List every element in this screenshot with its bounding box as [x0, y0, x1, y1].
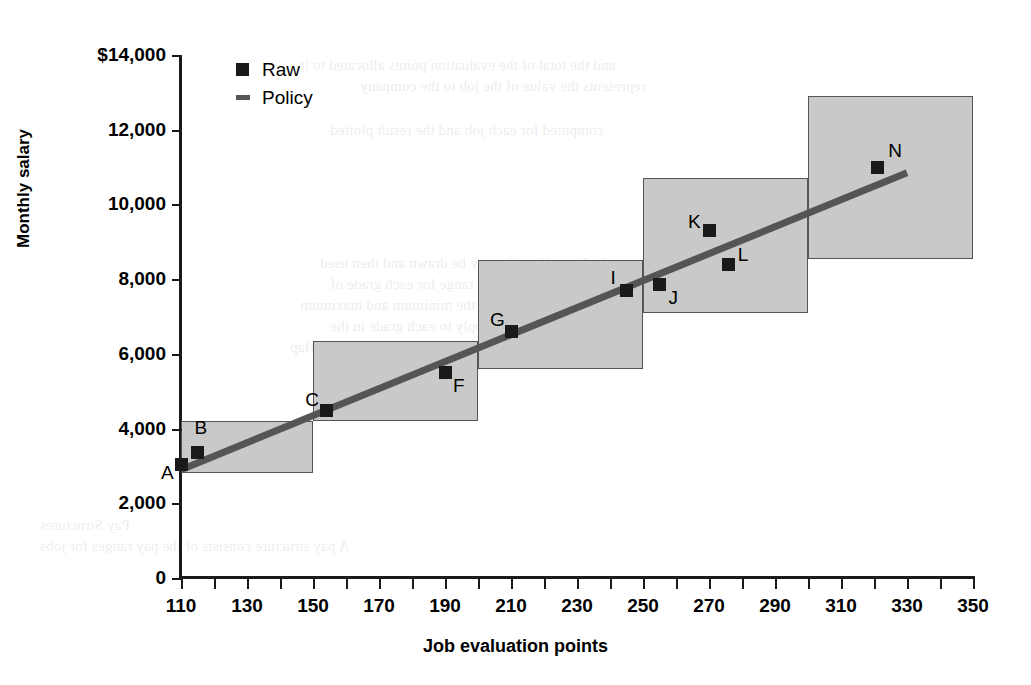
x-axis-tick — [214, 578, 216, 589]
salary-policy-chart: ABCFGIJKLN 02,0004,0006,0008,00010,00012… — [0, 0, 1031, 685]
x-axis-tick-label: 190 — [410, 595, 480, 617]
x-axis-tick — [742, 578, 744, 589]
data-point-label: N — [888, 140, 902, 162]
y-axis-tick-label: 0 — [46, 567, 179, 589]
data-point-marker — [191, 446, 204, 459]
data-point-marker — [439, 366, 452, 379]
x-axis-tick — [544, 578, 546, 589]
data-point-marker — [703, 224, 716, 237]
x-axis-tick — [874, 578, 876, 589]
data-point-label: C — [305, 389, 319, 411]
x-axis-tick-label: 230 — [542, 595, 612, 617]
chart-legend: Raw Policy — [236, 55, 313, 111]
x-axis-tick-label: 350 — [938, 595, 1008, 617]
data-point-label: B — [195, 417, 208, 439]
x-axis-tick — [841, 578, 843, 589]
x-axis-tick — [511, 578, 513, 589]
x-axis-tick-label: 310 — [806, 595, 876, 617]
x-axis-tick — [412, 578, 414, 589]
y-axis-tick-label: 12,000 — [46, 119, 179, 141]
data-point-label: L — [738, 244, 749, 266]
x-axis-tick — [610, 578, 612, 589]
x-axis-tick-label: 210 — [476, 595, 546, 617]
x-axis-tick — [808, 578, 810, 589]
x-axis-tick — [775, 578, 777, 589]
data-point-label: F — [453, 375, 465, 397]
legend-label-raw: Raw — [262, 60, 300, 79]
x-axis-tick-label: 290 — [740, 595, 810, 617]
data-point-marker — [653, 278, 666, 291]
x-axis-tick — [379, 578, 381, 589]
x-axis-tick — [907, 578, 909, 589]
y-axis-tick-label: 8,000 — [46, 268, 179, 290]
legend-item-raw: Raw — [236, 55, 313, 83]
x-axis-tick — [445, 578, 447, 589]
data-point-label: I — [611, 267, 616, 289]
y-axis-title: Monthly salary — [14, 129, 34, 248]
x-axis-tick — [709, 578, 711, 589]
policy-trend-line — [181, 173, 907, 470]
data-point-marker — [175, 458, 188, 471]
y-axis-tick-label: 4,000 — [46, 418, 179, 440]
x-axis-tick-label: 150 — [278, 595, 348, 617]
x-axis-tick-label: 170 — [344, 595, 414, 617]
policy-line-svg — [181, 55, 973, 578]
data-point-label: J — [669, 287, 679, 309]
x-axis-tick-label: 270 — [674, 595, 744, 617]
x-axis-tick — [676, 578, 678, 589]
policy-line-icon — [236, 95, 250, 100]
y-axis-tick-label: 6,000 — [46, 343, 179, 365]
x-axis-tick — [181, 578, 183, 589]
x-axis-tick-label: 330 — [872, 595, 942, 617]
plot-area: ABCFGIJKLN 02,0004,0006,0008,00010,00012… — [181, 55, 973, 578]
x-axis-tick-label: 130 — [212, 595, 282, 617]
data-point-label: G — [490, 309, 505, 331]
data-point-marker — [505, 325, 518, 338]
x-axis-tick — [973, 578, 975, 589]
legend-label-policy: Policy — [262, 88, 313, 107]
x-axis-tick — [643, 578, 645, 589]
x-axis-tick-label: 250 — [608, 595, 678, 617]
x-axis-tick — [346, 578, 348, 589]
data-point-marker — [320, 404, 333, 417]
data-point-label: A — [161, 462, 174, 484]
x-axis-tick — [313, 578, 315, 589]
data-point-marker — [620, 284, 633, 297]
x-axis-title: Job evaluation points — [0, 636, 1031, 657]
x-axis-tick — [577, 578, 579, 589]
data-point-marker — [722, 258, 735, 271]
x-axis-tick — [478, 578, 480, 589]
y-axis-tick-label: 2,000 — [46, 492, 179, 514]
y-axis-tick-label: 10,000 — [46, 193, 179, 215]
data-point-marker — [871, 161, 884, 174]
y-axis-tick-label: $14,000 — [46, 44, 179, 66]
x-axis-tick — [280, 578, 282, 589]
x-axis-tick-label: 110 — [146, 595, 216, 617]
legend-item-policy: Policy — [236, 83, 313, 111]
data-point-label: K — [688, 211, 701, 233]
raw-marker-icon — [236, 63, 249, 76]
x-axis-tick — [940, 578, 942, 589]
x-axis-tick — [247, 578, 249, 589]
